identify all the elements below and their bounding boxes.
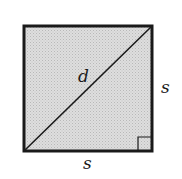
square-diagram: d s s [0, 0, 182, 179]
diagonal-label: d [78, 66, 89, 86]
right-side-label: s [161, 77, 170, 97]
bottom-side-label: s [83, 153, 92, 173]
